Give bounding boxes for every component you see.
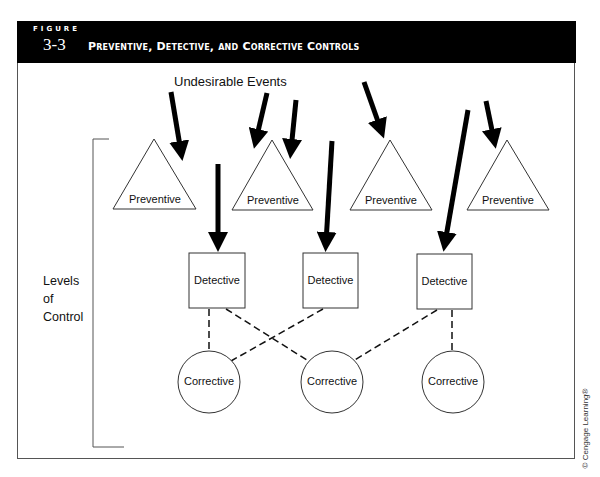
detective-label-2: Detective (303, 274, 358, 286)
arrow-icon (171, 92, 181, 152)
preventive-label-3: Preventive (350, 194, 432, 206)
levels-of-control-label: Levels of Control (43, 272, 83, 326)
preventive-label-2: Preventive (232, 194, 314, 206)
levels-bracket (93, 139, 124, 447)
arrow-icon (256, 93, 267, 140)
corrective-label-1: Corrective (178, 375, 240, 387)
copyright-credit: © Cengage Learning® (581, 389, 590, 469)
arrow-icon (364, 82, 381, 130)
corrective-label-3: Corrective (422, 375, 484, 387)
levels-line-3: Control (43, 308, 83, 326)
arrow-icon (445, 110, 468, 243)
arrow-icon (291, 100, 296, 150)
event-arrows (171, 82, 494, 243)
arrow-icon (326, 141, 332, 243)
arrow-icon (486, 101, 494, 140)
detective-label-1: Detective (189, 274, 245, 286)
detective-label-3: Detective (417, 275, 472, 287)
preventive-label-4: Preventive (467, 194, 549, 206)
undesirable-events-label: Undesirable Events (174, 74, 287, 89)
levels-line-1: Levels (43, 272, 83, 290)
corrective-label-2: Corrective (301, 375, 363, 387)
controls-diagram (0, 0, 600, 477)
preventive-label-1: Preventive (114, 193, 196, 205)
levels-line-2: of (43, 290, 83, 308)
